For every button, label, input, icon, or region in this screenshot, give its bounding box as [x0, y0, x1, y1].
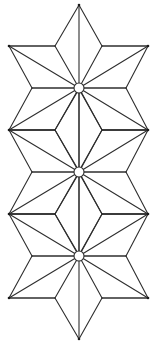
hub-circle-2: [74, 167, 84, 177]
vertex-dot-icon: [147, 129, 150, 132]
star-pattern-diagram: [0, 0, 153, 353]
star-3-outline-edge: [55, 298, 79, 339]
vertex-dot-icon: [8, 45, 11, 48]
vertex-dot-icon: [8, 129, 11, 132]
star-3-spoke: [9, 256, 79, 298]
vertex-dot-icon: [147, 45, 150, 48]
star-1-spoke: [9, 88, 79, 130]
vertex-dot-icon: [78, 338, 81, 341]
star-1-spoke: [55, 46, 79, 88]
star-2-spoke: [79, 130, 148, 172]
star-1-spoke: [9, 46, 79, 88]
star-1-outline-edge: [79, 5, 102, 46]
hub-circle-3: [74, 251, 84, 261]
star-3-outline-edge: [79, 298, 102, 339]
hub-circle-1: [74, 83, 84, 93]
vertex-dot-icon: [78, 4, 81, 7]
star-3-spoke: [55, 256, 79, 298]
vertex-dot-icon: [8, 297, 11, 300]
star-3-spoke: [9, 214, 79, 256]
asanoha-star-pattern: [0, 0, 153, 353]
star-3-spoke: [79, 256, 102, 298]
star-2-spoke: [79, 130, 102, 172]
star-3-spoke: [55, 214, 79, 256]
star-1-spoke: [79, 46, 148, 88]
star-2-spoke: [55, 130, 79, 172]
vertex-dot-icon: [147, 297, 150, 300]
star-3-spoke: [79, 214, 102, 256]
star-1-spoke: [79, 88, 148, 130]
vertex-dot-icon: [8, 213, 11, 216]
star-2-spoke: [79, 172, 148, 214]
star-3-spoke: [79, 214, 148, 256]
vertex-dot-icon: [147, 213, 150, 216]
star-1-outline-edge: [55, 5, 79, 46]
star-2-spoke: [9, 130, 79, 172]
star-2-spoke: [9, 172, 79, 214]
star-3-spoke: [79, 256, 148, 298]
star-1-spoke: [79, 46, 102, 88]
